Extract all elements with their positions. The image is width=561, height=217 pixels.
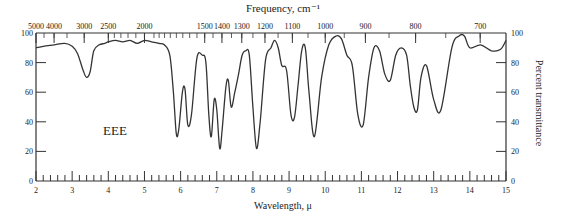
y-tick-label: 20 (511, 147, 519, 156)
frequency-tick-label: 1200 (257, 22, 273, 31)
frequency-tick-label: 1400 (214, 22, 230, 31)
frequency-tick-label: 900 (359, 22, 371, 31)
y-tick-label: 60 (25, 88, 33, 97)
frequency-tick-label: 4000 (46, 22, 62, 31)
frequency-tick-label: 700 (474, 22, 486, 31)
y-tick-label: 60 (511, 88, 519, 97)
frequency-tick-label: 1300 (234, 22, 250, 31)
frequency-tick-label: 1500 (197, 22, 213, 31)
y-axis-label: Percent transmittance (534, 60, 545, 147)
sample-label: EEE (103, 123, 127, 138)
frequency-tick-label: 2000 (136, 22, 152, 31)
x-tick-label: 3 (70, 186, 74, 195)
frequency-tick-label: 2500 (100, 22, 116, 31)
x-tick-label: 9 (287, 186, 291, 195)
y-tick-label: 20 (25, 147, 33, 156)
x-tick-label: 7 (215, 186, 219, 195)
y-tick-label: 40 (511, 118, 519, 127)
ir-spectrum-chart: Frequency, cm⁻¹ 500040003000250020001500… (0, 0, 561, 217)
y-tick-label: 80 (25, 59, 33, 68)
x-tick-label: 4 (106, 186, 110, 195)
y-tick-label: 100 (511, 29, 523, 38)
x-tick-label: 14 (466, 186, 474, 195)
frequency-tick-label: 3000 (76, 22, 92, 31)
left-y-axis: 020406080100 (21, 29, 46, 186)
y-tick-label: 80 (511, 59, 519, 68)
wavelength-ticks: 23456789101112131415 (34, 171, 510, 195)
y-tick-label: 100 (21, 29, 33, 38)
top-axis-title: Frequency, cm⁻¹ (246, 2, 320, 14)
frequency-tick-label: 800 (410, 22, 422, 31)
right-y-axis: 020406080100 (496, 29, 523, 186)
x-tick-label: 12 (394, 186, 402, 195)
x-tick-label: 5 (142, 186, 146, 195)
x-tick-label: 2 (34, 186, 38, 195)
frequency-tick-label: 1100 (285, 22, 301, 31)
x-tick-label: 15 (502, 186, 510, 195)
x-tick-label: 11 (358, 186, 366, 195)
x-axis-label: Wavelength, μ (254, 200, 312, 211)
x-tick-label: 8 (251, 186, 255, 195)
y-tick-label: 40 (25, 118, 33, 127)
x-tick-label: 10 (321, 186, 329, 195)
y-tick-label: 0 (29, 177, 33, 186)
frequency-axis-label: Frequency, cm⁻¹ (246, 2, 320, 14)
frequency-tick-label: 1000 (317, 22, 333, 31)
x-tick-label: 13 (430, 186, 438, 195)
x-tick-label: 6 (179, 186, 183, 195)
y-tick-label: 0 (511, 177, 515, 186)
